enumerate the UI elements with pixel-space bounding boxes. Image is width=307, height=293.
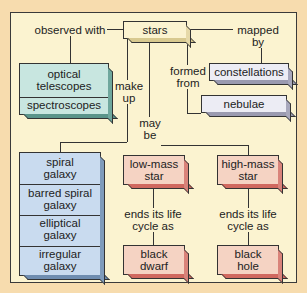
node-spectroscopes: spectroscopes	[27, 97, 101, 114]
divider	[20, 97, 108, 98]
node-stars: stars	[123, 21, 187, 39]
node-black-hole-label: black hole	[230, 248, 266, 272]
link-label-mapped-by: mapped by	[233, 24, 283, 48]
node-high-mass-star-label: high-mass star	[221, 158, 275, 182]
node-elliptical-galaxy: elliptical galaxy	[30, 214, 90, 245]
node-nebulae: nebulae	[201, 95, 287, 113]
divider	[20, 184, 100, 185]
node-galaxy-types: spiral galaxy barred spiral galaxy ellip…	[19, 152, 101, 276]
link-label-make-up: make up	[115, 80, 143, 104]
divider	[20, 246, 100, 247]
node-low-mass-star-label: low-mass star	[129, 158, 179, 182]
link-label-observed-with: observed with	[33, 24, 107, 36]
node-stars-label: stars	[143, 24, 168, 36]
link-label-ends-life-high: ends its life cycle as	[212, 208, 284, 232]
connector	[248, 145, 249, 155]
node-constellations: constellations	[209, 63, 289, 81]
link-label-formed-from: formed from	[167, 65, 209, 89]
connector	[60, 142, 61, 152]
node-black-hole: black hole	[217, 245, 279, 275]
divider	[20, 215, 100, 216]
concept-map-panel: observed with mapped by make up formed f…	[10, 12, 297, 283]
node-nebulae-label: nebulae	[224, 98, 265, 110]
node-constellations-label: constellations	[214, 66, 284, 78]
node-low-mass-star: low-mass star	[123, 155, 185, 185]
node-spiral-galaxy: spiral galaxy	[35, 153, 85, 184]
node-optical-telescopes: optical telescopes	[34, 64, 94, 97]
connector	[187, 113, 201, 114]
node-observation-tools: optical telescopes spectroscopes	[19, 63, 109, 115]
link-label-may-be: may be	[139, 117, 161, 141]
node-black-dwarf-label: black dwarf	[136, 248, 172, 272]
link-label-ends-life-low: ends its life cycle as	[117, 208, 189, 232]
node-high-mass-star: high-mass star	[217, 155, 279, 185]
node-black-dwarf: black dwarf	[123, 245, 185, 275]
connector	[70, 35, 71, 63]
connector	[60, 142, 127, 143]
node-barred-spiral-galaxy: barred spiral galaxy	[22, 184, 98, 215]
connector	[161, 145, 248, 146]
node-irregular-galaxy: irregular galaxy	[30, 245, 90, 276]
